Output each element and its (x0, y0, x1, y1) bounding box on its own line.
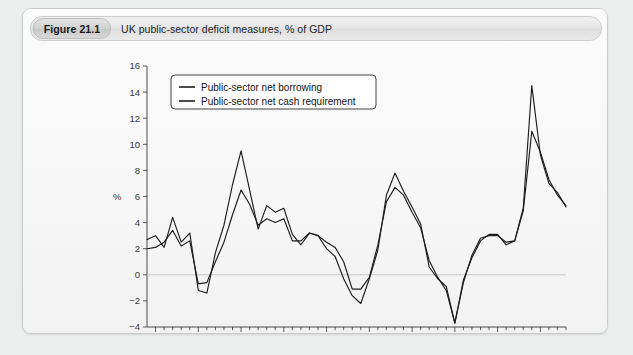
y-tick-label: 4 (135, 217, 140, 228)
y-tick-label: 6 (135, 191, 140, 202)
legend-label-1: Public-sector net cash requirement (201, 96, 356, 107)
legend-label-0: Public-sector net borrowing (201, 82, 322, 93)
figure-screenshot: Figure 21.1 UK public-sector deficit mea… (0, 0, 633, 355)
series-layer (147, 86, 566, 324)
line-chart: −4−20246810121416%1965197019751980198519… (23, 45, 609, 333)
y-tick-label: 12 (129, 113, 140, 124)
chart-legend: Public-sector net borrowingPublic-sector… (171, 75, 376, 109)
series-line-0 (147, 131, 566, 323)
figure-panel: Figure 21.1 UK public-sector deficit mea… (22, 8, 608, 334)
chart-plot-area: −4−20246810121416%1965197019751980198519… (23, 45, 609, 333)
y-tick-label: 0 (135, 269, 140, 280)
y-axis-title: % (113, 191, 122, 202)
y-tick-label: 16 (129, 60, 140, 71)
y-tick-label: 14 (129, 87, 140, 98)
series-line-1 (147, 86, 566, 324)
y-tick-label: −2 (129, 295, 140, 306)
y-tick-label: 8 (135, 165, 140, 176)
figure-caption-bar: Figure 21.1 UK public-sector deficit mea… (30, 16, 602, 41)
figure-caption-text: UK public-sector deficit measures, % of … (121, 17, 332, 40)
y-tick-label: 2 (135, 243, 140, 254)
y-tick-label: 10 (129, 139, 140, 150)
figure-number-badge: Figure 21.1 (33, 18, 111, 39)
y-tick-label: −4 (129, 321, 140, 332)
